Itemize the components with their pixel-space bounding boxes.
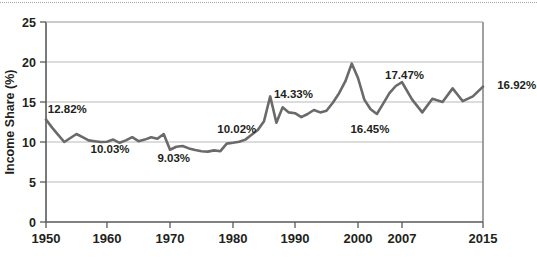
y-axis-title: Income Share (%) [3, 70, 17, 175]
data-point-labels: 12.82%10.03%9.03%10.02%14.33%16.45%17.47… [48, 69, 536, 165]
y-tick-label: 0 [29, 216, 36, 230]
data-point-label: 16.92% [497, 79, 536, 91]
data-point-label: 16.45% [350, 123, 389, 135]
income-share-chart: 0510152025 19501960197019801990200020072… [0, 0, 537, 260]
figure-container: 0510152025 19501960197019801990200020072… [0, 0, 537, 260]
x-tick-label: 2000 [344, 231, 373, 246]
x-tick-label: 1960 [93, 231, 122, 246]
x-tick-label: 2015 [469, 231, 498, 246]
data-point-label: 9.03% [157, 152, 190, 164]
data-point-label: 10.02% [217, 123, 256, 135]
y-tick-label: 5 [29, 176, 36, 190]
gridlines-group [46, 22, 483, 182]
data-point-label: 14.33% [274, 88, 313, 100]
y-tick-label: 15 [22, 96, 36, 110]
data-point-label: 17.47% [385, 69, 424, 81]
x-tick-label: 2007 [388, 231, 417, 246]
y-tick-label: 10 [22, 136, 36, 150]
data-point-label: 12.82% [48, 103, 87, 115]
y-tick-label: 25 [22, 16, 36, 30]
x-tick-label: 1980 [219, 231, 248, 246]
x-tick-label: 1950 [32, 231, 61, 246]
data-point-label: 10.03% [91, 143, 130, 155]
y-tick-label: 20 [22, 56, 36, 70]
x-tick-label: 1970 [156, 231, 185, 246]
x-axis-ticks: 19501960197019801990200020072015 [32, 222, 498, 246]
y-axis-ticks: 0510152025 [22, 16, 46, 230]
x-tick-label: 1990 [281, 231, 310, 246]
